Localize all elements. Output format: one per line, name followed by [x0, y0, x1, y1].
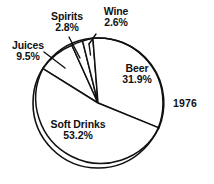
pie-label-soft-drinks-value: 53.2% [36, 130, 120, 141]
pie-label-wine-value: 2.6% [93, 17, 139, 28]
pie-label-spirits-value: 2.8% [41, 22, 93, 33]
pie-label-spirits: Spirits 2.8% [41, 11, 93, 34]
pie-label-beer-value: 31.9% [113, 74, 161, 85]
pie-label-soft-drinks: Soft Drinks 53.2% [36, 119, 120, 142]
pie-label-juices-value: 9.5% [4, 51, 52, 62]
pie-label-juices: Juices 9.5% [4, 40, 52, 63]
pie-label-beer: Beer 31.9% [113, 63, 161, 86]
pie-chart-figure: Juices 9.5% Spirits 2.8% Wine 2.6% Beer … [0, 0, 214, 184]
pie-label-wine: Wine 2.6% [93, 6, 139, 29]
chart-year-annotation: 1976 [173, 97, 197, 109]
